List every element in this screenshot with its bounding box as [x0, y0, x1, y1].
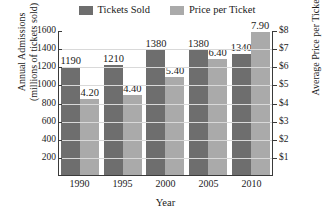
- bar: 1380: [189, 50, 208, 175]
- bar-value-label: 7.90: [251, 20, 269, 31]
- y-axis-left-tick-label: 1000: [37, 81, 56, 91]
- y-axis-left-ticks: 1600140012001000800600400200: [28, 31, 56, 176]
- legend-label: Price per Ticket: [189, 5, 256, 16]
- y-axis-left-tick-mark: [58, 49, 62, 50]
- y-axis-left-tick-mark: [58, 122, 62, 123]
- y-axis-left-tick-label: 1600: [37, 26, 56, 36]
- legend-label: Tickets Sold: [98, 5, 150, 16]
- bar-value-label: 1340: [231, 42, 252, 53]
- gridline: [59, 122, 272, 123]
- y-axis-right-tick-label: $6: [279, 63, 289, 73]
- y-axis-right-tick-mark: [272, 158, 277, 159]
- x-axis-tick-label: 1990: [58, 179, 101, 193]
- y-axis-right-title: Average Price per Ticket: [310, 0, 322, 134]
- y-axis-left-tick-mark: [58, 104, 62, 105]
- y-axis-right-tick-mark: [272, 85, 277, 86]
- y-axis-left-tick-mark: [58, 85, 62, 86]
- chart-legend: Tickets Sold Price per Ticket: [0, 2, 334, 18]
- y-axis-right-tick-mark: [272, 122, 277, 123]
- y-axis-left-tick-label: 800: [42, 99, 56, 109]
- y-axis-left-tick-label: 400: [42, 135, 56, 145]
- y-axis-left-tick-mark: [58, 158, 62, 159]
- gridline: [59, 67, 272, 68]
- y-axis-left-title-line1: Annual Admissions: [16, 0, 28, 140]
- x-axis-ticks: 19901995200020052010: [58, 179, 273, 193]
- x-axis-tick-label: 2010: [230, 179, 273, 193]
- legend-swatch-icon: [170, 6, 184, 15]
- gridline: [59, 158, 272, 159]
- y-axis-right-tick-label: $7: [279, 44, 289, 54]
- y-axis-left-tick-label: 200: [42, 153, 56, 163]
- plot-area: 11904.2012104.4013805.4013806.4013407.90: [58, 31, 273, 176]
- y-axis-right-tick-mark: [272, 67, 277, 68]
- x-axis-title: Year: [58, 197, 273, 208]
- legend-item-price-per-ticket: Price per Ticket: [170, 5, 256, 16]
- x-axis-tick-label: 2005: [187, 179, 230, 193]
- bar-value-label: 1190: [60, 55, 81, 66]
- bar: 1340: [232, 54, 251, 175]
- y-axis-right-tick-mark: [272, 31, 277, 32]
- gridline: [59, 104, 272, 105]
- legend-swatch-icon: [79, 6, 93, 15]
- y-axis-left-tick-mark: [58, 67, 62, 68]
- y-axis-left-tick-label: 1200: [37, 63, 56, 73]
- y-axis-right-tick-label: $4: [279, 99, 289, 109]
- bar: 4.20: [80, 99, 99, 175]
- gridline: [59, 140, 272, 141]
- bar-value-label: 1210: [103, 53, 124, 64]
- y-axis-left-tick-label: 1400: [37, 44, 56, 54]
- bar: 5.40: [165, 77, 184, 175]
- bar: 4.40: [123, 95, 142, 175]
- y-axis-left-tick-mark: [58, 140, 62, 141]
- y-axis-right-tick-label: $5: [279, 81, 289, 91]
- x-axis-tick-label: 1995: [101, 179, 144, 193]
- y-axis-right-tick-mark: [272, 49, 277, 50]
- y-axis-right-tick-label: $2: [279, 135, 289, 145]
- bar-value-label: 4.20: [81, 87, 99, 98]
- y-axis-right-tick-label: $8: [279, 26, 289, 36]
- y-axis-right-ticks: $8$7$6$5$4$3$2$1: [279, 31, 303, 176]
- y-axis-right-tick-label: $3: [279, 117, 289, 127]
- bar-chart: Tickets Sold Price per Ticket Annual Adm…: [0, 0, 334, 215]
- gridline: [59, 49, 272, 50]
- bar: 1380: [146, 50, 165, 175]
- y-axis-right-tick-label: $1: [279, 153, 289, 163]
- bar-value-label: 1380: [188, 38, 209, 49]
- gridline: [59, 85, 272, 86]
- y-axis-right-tick-mark: [272, 104, 277, 105]
- x-axis-tick-label: 2000: [144, 179, 187, 193]
- legend-item-tickets-sold: Tickets Sold: [79, 5, 150, 16]
- y-axis-left-tick-mark: [58, 31, 62, 32]
- y-axis-left-tick-label: 600: [42, 117, 56, 127]
- y-axis-right-tick-mark: [272, 140, 277, 141]
- bar-value-label: 1380: [145, 38, 166, 49]
